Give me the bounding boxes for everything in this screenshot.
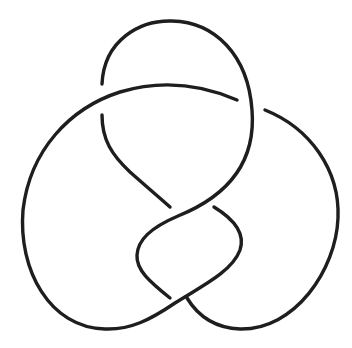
strand-left-inner: [102, 115, 170, 207]
knot-diagram-canvas: Figure-eight knot: [0, 0, 352, 348]
strand-top-loop: [102, 21, 252, 298]
knot-diagram: [0, 0, 352, 348]
strand-upper-arc: [22, 85, 241, 329]
strand-right-arc: [187, 110, 338, 329]
